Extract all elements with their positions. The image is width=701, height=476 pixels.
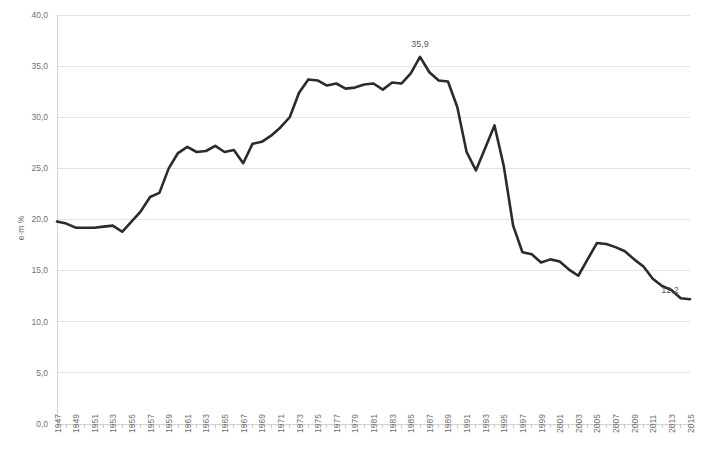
y-tick-label-40: 40,0	[31, 10, 48, 20]
line-chart: 0,05,010,015,020,025,030,035,040,0 19471…	[0, 0, 701, 476]
x-tick-label-1947: 1947	[53, 414, 63, 433]
series-line	[57, 57, 690, 299]
x-axis-tick-labels: 1947194919511953195519571959196119631965…	[53, 414, 696, 433]
x-tick-label-1989: 1989	[443, 414, 453, 433]
x-tick-label-1959: 1959	[164, 414, 174, 433]
y-tick-label-20: 20,0	[31, 214, 48, 224]
x-tick-label-1955: 1955	[127, 414, 137, 433]
x-tick-label-2011: 2011	[648, 414, 658, 433]
x-tick-label-1985: 1985	[406, 414, 416, 433]
y-axis-tick-labels: 0,05,010,015,020,025,030,035,040,0	[31, 10, 48, 429]
y-tick-label-25: 25,0	[31, 163, 48, 173]
y-tick-label-30: 30,0	[31, 112, 48, 122]
x-tick-label-2013: 2013	[667, 414, 677, 433]
x-tick-label-2001: 2001	[555, 414, 565, 433]
x-tick-label-1961: 1961	[183, 414, 193, 433]
x-tick-label-1999: 1999	[537, 414, 547, 433]
x-tick-label-1973: 1973	[295, 414, 305, 433]
x-tick-label-1965: 1965	[220, 414, 230, 433]
gridlines-group	[57, 15, 690, 373]
x-tick-label-2009: 2009	[630, 414, 640, 433]
x-tick-label-2015: 2015	[686, 414, 696, 433]
x-tick-label-1997: 1997	[518, 414, 528, 433]
y-tick-label-35: 35,0	[31, 61, 48, 71]
x-tick-label-2007: 2007	[611, 414, 621, 433]
x-tick-label-1953: 1953	[108, 414, 118, 433]
end-value-label: 12,2	[661, 285, 679, 295]
x-tick-label-2005: 2005	[592, 414, 602, 433]
x-tick-label-1987: 1987	[425, 414, 435, 433]
x-tick-label-1981: 1981	[369, 414, 379, 433]
x-tick-label-1977: 1977	[332, 414, 342, 433]
y-tick-label-15: 15,0	[31, 265, 48, 275]
x-tick-label-1993: 1993	[481, 414, 491, 433]
x-tick-label-1971: 1971	[276, 414, 286, 433]
x-tick-label-1983: 1983	[388, 414, 398, 433]
x-tick-label-1995: 1995	[499, 414, 509, 433]
y-axis-title: e·m %	[16, 215, 26, 240]
x-tick-label-1969: 1969	[257, 414, 267, 433]
x-tick-label-2003: 2003	[574, 414, 584, 433]
x-tick-label-1991: 1991	[462, 414, 472, 433]
x-tick-label-1975: 1975	[313, 414, 323, 433]
peak-value-label: 35,9	[411, 39, 429, 49]
x-tick-label-1963: 1963	[201, 414, 211, 433]
chart-container: 0,05,010,015,020,025,030,035,040,0 19471…	[0, 0, 701, 476]
data-series-group	[57, 57, 690, 299]
x-tick-label-1957: 1957	[146, 414, 156, 433]
y-tick-label-0: 0,0	[36, 419, 48, 429]
annotations-group: 35,912,2	[411, 39, 678, 295]
x-tick-label-1979: 1979	[350, 414, 360, 433]
x-tick-label-1949: 1949	[71, 414, 81, 433]
x-tick-label-1951: 1951	[90, 414, 100, 433]
y-tick-label-5: 5,0	[36, 368, 48, 378]
y-tick-label-10: 10,0	[31, 317, 48, 327]
x-tick-label-1967: 1967	[239, 414, 249, 433]
